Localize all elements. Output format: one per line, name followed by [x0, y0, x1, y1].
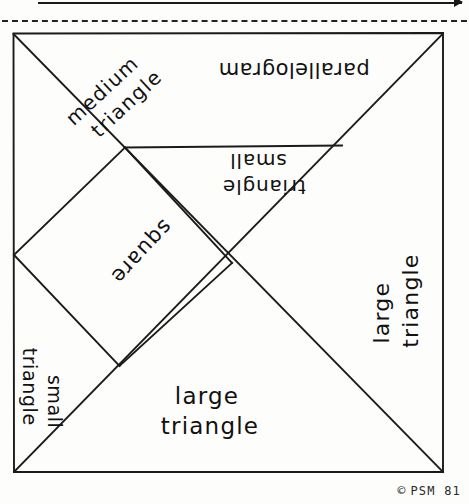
- tangram-page: medium triangle parallelogram triangle s…: [0, 0, 469, 504]
- label-small-triangle-left-line1: small: [42, 353, 67, 451]
- label-small-triangle-upper-line1: triangle: [182, 174, 346, 200]
- label-large-triangle-right: large triangle: [368, 221, 425, 381]
- label-large-triangle-bottom-line2: triangle: [110, 412, 310, 442]
- label-parallelogram-line1: parallelogram: [196, 56, 392, 83]
- label-small-triangle-left: small triangle: [17, 323, 66, 451]
- copyright-notice: © PSM 81: [397, 483, 461, 498]
- copyright-icon: ©: [397, 483, 406, 498]
- label-large-triangle-bottom-line1: large: [104, 382, 310, 412]
- label-small-triangle-upper: triangle small: [182, 148, 334, 200]
- label-large-triangle-right-line2: triangle: [397, 221, 426, 381]
- label-small-triangle-upper-line2: small: [182, 148, 334, 174]
- copyright-text: PSM 81: [410, 484, 461, 498]
- label-small-triangle-left-line2: triangle: [17, 323, 42, 451]
- label-large-triangle-bottom: large triangle: [110, 382, 310, 442]
- square-piece-edge-lower-right: [120, 263, 233, 366]
- label-parallelogram: parallelogram: [196, 56, 392, 83]
- label-large-triangle-right-line1: large: [368, 221, 397, 405]
